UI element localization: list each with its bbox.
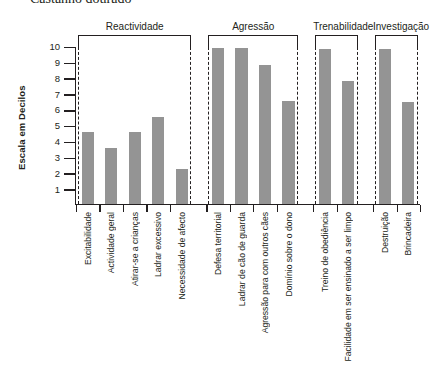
group-label: Trenabilidade — [313, 21, 360, 32]
y-axis-tick — [64, 126, 75, 127]
bar — [379, 49, 391, 204]
y-axis-tick-label: 6 — [44, 105, 60, 115]
x-axis-label: Facilidade em ser ensinado a ser limpo — [343, 212, 353, 362]
x-axis-tick — [373, 205, 374, 212]
group-separator — [297, 47, 298, 204]
y-axis-tick-label: 4 — [44, 137, 60, 147]
x-axis-tick — [253, 205, 254, 212]
x-axis-label: Defesa territorial — [213, 212, 223, 275]
y-axis-tick-label: 2 — [44, 169, 60, 179]
y-axis-tick — [64, 63, 75, 64]
y-axis-tick-label: 1 — [44, 185, 60, 195]
x-axis-tick — [99, 205, 100, 212]
bar — [176, 169, 188, 204]
group-separator — [208, 47, 209, 204]
bar — [402, 102, 414, 204]
y-axis-tick-label: 7 — [44, 90, 60, 100]
bar — [82, 132, 94, 204]
bar — [282, 101, 294, 204]
x-axis-label: Treino de obediência — [320, 212, 330, 292]
group-separator — [375, 47, 376, 204]
group-separator — [190, 47, 191, 204]
y-axis-tick — [64, 94, 75, 95]
x-axis-label: Actividade geral — [106, 212, 116, 273]
group-separator — [78, 47, 79, 204]
bar — [235, 48, 247, 205]
bar — [129, 132, 141, 204]
y-axis-tick — [64, 158, 75, 159]
group-bracket — [315, 35, 358, 47]
x-axis-tick — [337, 205, 338, 212]
bar — [212, 48, 224, 205]
y-axis-tick — [64, 173, 75, 174]
y-axis-tick-label: 5 — [44, 121, 60, 131]
bar — [105, 148, 117, 204]
group-separator — [315, 47, 316, 204]
bar — [319, 49, 331, 204]
group-label: Reactividade — [76, 21, 193, 32]
group-label: Investigação — [373, 21, 420, 32]
group-bracket — [375, 35, 418, 47]
x-axis-tick — [397, 205, 398, 212]
y-axis-tick-label: 10 — [44, 42, 60, 52]
group-label: Agressão — [206, 21, 300, 32]
bar — [259, 65, 271, 204]
x-axis-tick — [206, 205, 207, 212]
x-axis-tick — [76, 205, 77, 212]
group-separator — [357, 47, 358, 204]
group-bracket — [78, 35, 191, 47]
x-axis-label: Brincadeira — [403, 212, 413, 255]
y-axis-tick — [64, 47, 75, 48]
x-axis-tick — [123, 205, 124, 212]
x-axis-tick — [313, 205, 314, 212]
y-axis-tick — [64, 110, 75, 111]
x-axis-tick — [277, 205, 278, 212]
x-axis-label: Destruição — [380, 212, 390, 253]
x-axis-label: Domínio sobre o dono — [284, 212, 294, 297]
x-axis-label: Agressão para com outros cães — [260, 212, 270, 333]
x-axis-tick — [170, 205, 171, 212]
x-axis-tick — [146, 205, 147, 212]
y-axis-tick — [64, 142, 75, 143]
y-axis-tick — [64, 189, 75, 190]
bar — [152, 117, 164, 204]
x-axis-label: Excitabilidade — [83, 212, 93, 265]
bar-chart: Escala em Decilos 12345678910 Reactivida… — [0, 0, 432, 390]
y-axis-line — [75, 47, 76, 205]
bar — [342, 81, 354, 204]
y-axis-title: Escala em Decilos — [13, 68, 29, 188]
x-axis-label: Atirar-se a crianças — [130, 212, 140, 286]
x-axis-tick — [420, 205, 421, 212]
y-axis-tick-label: 3 — [44, 153, 60, 163]
x-axis-label: Ladrar de cão de guarda — [237, 212, 247, 306]
x-axis-tick — [230, 205, 231, 212]
y-axis-tick — [64, 78, 75, 79]
y-axis-tick-label: 9 — [44, 58, 60, 68]
group-bracket — [208, 35, 298, 47]
x-axis-label: Necessidade de afecto — [177, 212, 187, 299]
group-separator — [417, 47, 418, 204]
x-axis-label: Ladrar excessivo — [153, 212, 163, 277]
y-axis-tick-label: 8 — [44, 74, 60, 84]
